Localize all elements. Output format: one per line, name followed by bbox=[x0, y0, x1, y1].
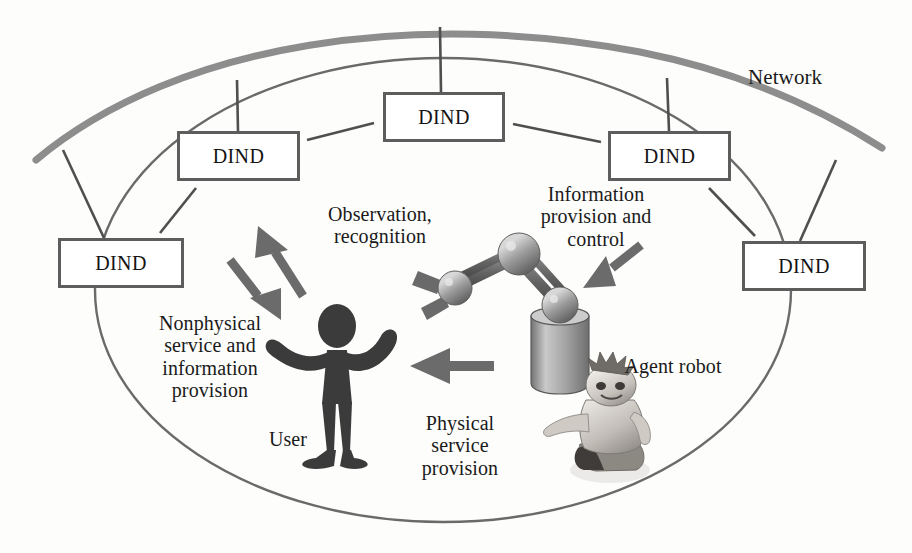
dind-node-upper-left[interactable]: DIND bbox=[177, 131, 300, 181]
dind-node-label: DIND bbox=[644, 145, 696, 168]
network-label: Network bbox=[748, 66, 822, 90]
observation-arrow bbox=[255, 226, 303, 296]
information-arrow bbox=[583, 245, 641, 288]
dind-node-label: DIND bbox=[778, 255, 830, 278]
link-upperleft-left bbox=[160, 188, 196, 233]
physical-service-label: Physical service provision bbox=[392, 412, 528, 479]
dind-node-label: DIND bbox=[213, 145, 265, 168]
dind-node-left[interactable]: DIND bbox=[58, 238, 184, 288]
link-upperright-right bbox=[709, 188, 755, 236]
nonphysical-arrow bbox=[230, 260, 281, 320]
observation-label: Observation, recognition bbox=[300, 203, 460, 248]
nonphysical-service-label: Nonphysical service and information prov… bbox=[140, 312, 280, 402]
dind-node-right[interactable]: DIND bbox=[742, 241, 866, 291]
diagram-canvas: Network DIND DIND DIND DIND DIND Observa… bbox=[0, 0, 912, 553]
dind-node-upper-right[interactable]: DIND bbox=[608, 131, 731, 181]
network-stem-upper-right bbox=[667, 78, 669, 131]
user-label: User bbox=[258, 428, 318, 450]
link-upperleft-top bbox=[307, 123, 374, 140]
agent-robot-label: Agent robot bbox=[608, 355, 738, 377]
link-top-upperright bbox=[513, 124, 601, 142]
network-stem-right bbox=[800, 160, 836, 241]
dind-node-top[interactable]: DIND bbox=[383, 92, 505, 142]
network-stem-top bbox=[440, 27, 441, 92]
network-stem-upper-left bbox=[237, 80, 238, 131]
dind-node-label: DIND bbox=[95, 252, 147, 275]
information-provision-label: Information provision and control bbox=[522, 183, 670, 250]
physical-arrow bbox=[410, 348, 494, 384]
dind-node-label: DIND bbox=[418, 106, 470, 129]
network-stem-left bbox=[63, 150, 104, 238]
